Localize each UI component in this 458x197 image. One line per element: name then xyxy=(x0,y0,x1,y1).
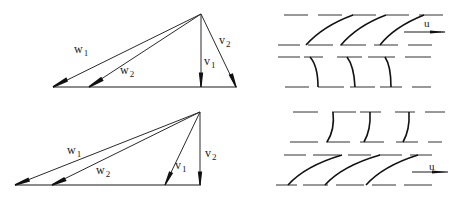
rotor2-blade xyxy=(325,155,380,185)
bottom-w2-arrowhead-icon xyxy=(52,178,66,185)
top-w2-arrowhead-icon xyxy=(89,78,103,87)
label-u-top: u xyxy=(424,18,430,29)
stator-blade xyxy=(347,57,355,87)
top-stator-blade-row xyxy=(278,57,431,87)
bottom-rotor-blade-row xyxy=(276,155,448,185)
top-v2-arrowhead-icon xyxy=(230,74,237,87)
diagram-canvas xyxy=(0,0,458,197)
bottom-stator-blade-row xyxy=(290,112,445,142)
label-bottom-w1: w1 xyxy=(67,144,81,159)
label-top-w1: w1 xyxy=(74,43,88,58)
rotor-blade xyxy=(380,15,424,45)
u-top-arrowhead-icon xyxy=(430,31,446,34)
label-top-w2: w2 xyxy=(120,64,134,79)
rotor-blade xyxy=(341,15,386,45)
rotor2-blade xyxy=(366,155,418,185)
bottom-v1-arrowhead-icon xyxy=(165,172,172,185)
label-u-bottom: u xyxy=(429,161,435,172)
top-v1-arrowhead-icon xyxy=(200,73,203,87)
label-bottom-v1: v1 xyxy=(175,159,187,174)
stator2-blade xyxy=(364,112,370,142)
bottom-w1-arrowhead-icon xyxy=(15,179,29,186)
top-w2-vector xyxy=(89,14,201,87)
stator2-blade xyxy=(327,112,333,142)
label-bottom-v2: v2 xyxy=(205,147,217,162)
label-top-v1: v1 xyxy=(204,55,216,70)
label-top-v2: v2 xyxy=(219,34,231,49)
bottom-v2-arrowhead-icon xyxy=(199,172,202,185)
top-rotor-blade-row xyxy=(278,15,446,45)
top-w1-arrowhead-icon xyxy=(53,79,67,88)
rotor2-blade xyxy=(288,155,342,185)
stator-blade xyxy=(310,57,318,87)
stator-blade xyxy=(385,57,391,87)
stator2-blade xyxy=(403,112,409,142)
label-bottom-w2: w2 xyxy=(96,164,110,179)
